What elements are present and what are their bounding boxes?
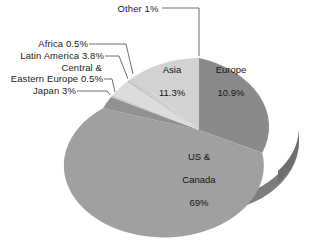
pie-chart-graphic	[0, 0, 314, 242]
label-central-and: Central &	[0, 62, 102, 73]
slice-label-us-canada: US & Canada 69%	[160, 139, 238, 208]
slice-label-asia: Asia 11.3%	[147, 52, 197, 98]
leader-line-japan	[77, 91, 110, 95]
label-eastern-europe: Eastern Europe 0.5%	[0, 73, 103, 84]
leader-line-other	[162, 8, 199, 56]
label-africa: Africa 0.5%	[0, 38, 88, 49]
label-other: Other 1%	[112, 3, 164, 14]
slice-label-europe: Europe 10.9%	[203, 52, 259, 98]
leader-line-latin-america	[105, 56, 128, 79]
pie-chart: Africa 0.5% Latin America 3.8% Central &…	[0, 0, 314, 242]
slice-label-asia-name: Asia	[163, 64, 181, 75]
slice-label-asia-value: 11.3%	[159, 87, 185, 98]
label-japan: Japan 3%	[0, 85, 76, 96]
slice-label-us-canada-value: 69%	[189, 197, 208, 208]
slice-label-us-canada-line1: US &	[188, 151, 210, 162]
leader-line-eastern-europe	[104, 79, 115, 92]
label-latin-america: Latin America 3.8%	[0, 50, 104, 61]
slice-label-europe-value: 10.9%	[218, 87, 245, 98]
slice-label-us-canada-line2: Canada	[182, 174, 215, 185]
slice-label-europe-name: Europe	[216, 64, 247, 75]
